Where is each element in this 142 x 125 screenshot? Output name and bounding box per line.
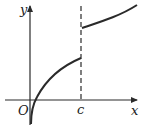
left-branch-curve	[31, 58, 81, 124]
c-label: c	[77, 103, 84, 116]
origin-label: O	[18, 104, 29, 117]
x-axis-label: x	[131, 104, 138, 117]
y-axis-label: y	[20, 3, 27, 16]
function-graph-diagram: y x O c	[0, 0, 142, 125]
right-branch-curve	[82, 5, 137, 28]
